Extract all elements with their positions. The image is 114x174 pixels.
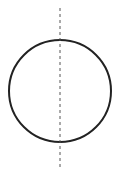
- diagram-canvas: [0, 0, 114, 174]
- circle: [9, 40, 111, 142]
- diagram-svg: [0, 0, 114, 174]
